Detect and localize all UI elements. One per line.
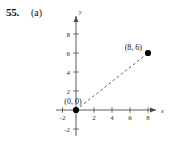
y-axis-arrow-icon (74, 16, 79, 22)
y-axis-label: y (78, 9, 82, 15)
y-tick-label-4: 4 (67, 69, 71, 77)
point-origin (73, 107, 79, 113)
y-tick-label-2: 2 (67, 88, 71, 96)
figure-container: 55. (a) y x -2 2 4 6 8 8 6 4 (0, 0, 169, 142)
x-tick-label-6: 6 (128, 114, 132, 122)
x-axis-label: x (160, 108, 164, 114)
y-tick-label-neg2: -2 (64, 126, 70, 134)
point-8-6 (145, 50, 151, 56)
point-label-8-6: (8, 6) (125, 43, 143, 52)
coordinate-plot: y x -2 2 4 6 8 8 6 4 2 -2 (0, 0) (8, 6) (0, 0, 169, 142)
x-tick-label-neg2: -2 (60, 114, 66, 122)
x-tick-label-2: 2 (92, 114, 96, 122)
dashed-segment (76, 53, 148, 110)
x-tick-label-4: 4 (110, 114, 114, 122)
point-label-origin: (0, 0) (64, 97, 82, 106)
x-axis-arrow-icon (150, 108, 156, 113)
y-tick-label-6: 6 (67, 50, 71, 58)
y-tick-label-8: 8 (67, 31, 71, 39)
x-tick-label-8: 8 (146, 114, 150, 122)
